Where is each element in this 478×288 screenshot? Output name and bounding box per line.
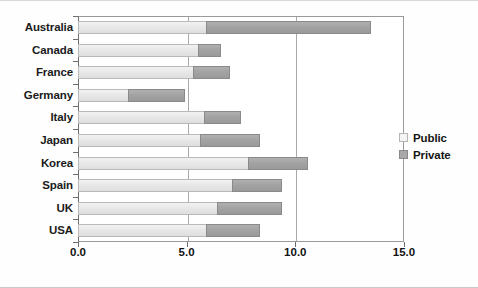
bar-row	[78, 174, 404, 197]
bar-segment-public	[78, 44, 198, 57]
bar-segment-private	[204, 111, 241, 124]
stacked-bar-korea	[78, 157, 308, 170]
chart-figure: Australia Canada France Germany Italy Ja…	[0, 0, 478, 288]
bar-segment-private	[128, 89, 185, 102]
category-label-spain: Spain	[0, 174, 73, 197]
x-axis-label-10: 10.0	[284, 246, 306, 258]
chart-legend: Public Private	[399, 129, 451, 163]
category-label-canada: Canada	[0, 39, 73, 62]
bar-segment-public	[78, 111, 204, 124]
category-label-japan: Japan	[0, 129, 73, 152]
bar-segment-private	[193, 66, 230, 79]
category-label-uk: UK	[0, 197, 73, 220]
bar-row	[78, 219, 404, 242]
stacked-bar-uk	[78, 202, 282, 215]
bar-row	[78, 197, 404, 220]
stacked-bar-japan	[78, 134, 260, 147]
bar-segment-public	[78, 134, 200, 147]
x-axis-label-0: 0.0	[70, 246, 86, 258]
bar-row	[78, 152, 404, 175]
private-swatch-icon	[399, 150, 408, 159]
bar-segment-public	[78, 21, 206, 34]
bar-segment-private	[206, 21, 371, 34]
stacked-bar-canada	[78, 44, 221, 57]
stacked-bar-australia	[78, 21, 371, 34]
x-axis-label-15: 15.0	[393, 246, 415, 258]
category-label-usa: USA	[0, 219, 73, 242]
stacked-bar-germany	[78, 89, 185, 102]
bar-row	[78, 84, 404, 107]
bar-segment-public	[78, 224, 206, 237]
category-axis-labels: Australia Canada France Germany Italy Ja…	[0, 16, 73, 242]
bar-row	[78, 129, 404, 152]
bar-segment-private	[198, 44, 222, 57]
stacked-bar-usa	[78, 224, 260, 237]
bar-row	[78, 106, 404, 129]
bar-rows	[78, 16, 404, 242]
category-label-france: France	[0, 61, 73, 84]
stacked-bar-italy	[78, 111, 241, 124]
bar-segment-private	[232, 179, 282, 192]
bar-segment-public	[78, 202, 217, 215]
category-label-italy: Italy	[0, 106, 73, 129]
bar-row	[78, 61, 404, 84]
bar-segment-public	[78, 179, 232, 192]
category-label-australia: Australia	[0, 16, 73, 39]
legend-item-private: Private	[399, 146, 451, 163]
legend-item-public: Public	[399, 129, 451, 146]
category-label-korea: Korea	[0, 152, 73, 175]
bar-segment-private	[248, 157, 309, 170]
x-axis-label-5: 5.0	[179, 246, 195, 258]
bar-segment-public	[78, 66, 193, 79]
bar-segment-private	[200, 134, 261, 147]
bar-segment-private	[217, 202, 282, 215]
bar-row	[78, 39, 404, 62]
category-label-germany: Germany	[0, 84, 73, 107]
stacked-bar-spain	[78, 179, 282, 192]
legend-label-private: Private	[413, 149, 451, 161]
public-swatch-icon	[399, 133, 408, 142]
stacked-bar-france	[78, 66, 230, 79]
bar-segment-private	[206, 224, 260, 237]
bar-segment-public	[78, 89, 128, 102]
legend-label-public: Public	[413, 132, 447, 144]
bar-segment-public	[78, 157, 248, 170]
bar-row	[78, 16, 404, 39]
value-axis-labels: 0.0 5.0 10.0 15.0	[0, 246, 478, 266]
